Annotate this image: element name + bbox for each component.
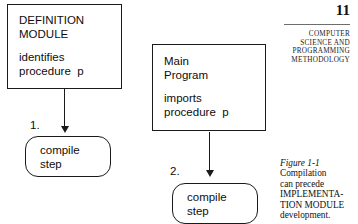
running-head: COMPUTER SCIENCE AND PROGRAMMING METHODO… <box>276 30 350 64</box>
step-number-2: 2. <box>170 165 180 177</box>
compile-step-2-box: compile step <box>172 183 258 224</box>
running-head-line: SCIENCE AND <box>276 39 350 48</box>
figure-caption: Figure 1-1 Compilation can precede IMPLE… <box>280 158 358 220</box>
arrow-mainprogram-to-compile2-line <box>209 132 210 172</box>
running-head-line: METHODOLOGY <box>276 56 350 65</box>
arrow-mainprogram-to-compile2-head <box>206 170 214 177</box>
figure-caption-line: IMPLEMENTA- <box>280 189 358 199</box>
figure-caption-line: can precede <box>280 179 358 189</box>
step-number-1: 1. <box>30 119 40 131</box>
definition-module-header: DEFINITION MODULE <box>19 14 84 41</box>
definition-module-body: identifies procedure p <box>19 51 84 78</box>
running-head-line: COMPUTER <box>276 30 350 39</box>
compile-step-1-box: compile step <box>25 136 111 177</box>
arrow-definition-to-compile1-line <box>64 89 65 128</box>
compile-step-2-label: compile step <box>187 191 227 218</box>
figure-caption-line: development. <box>280 210 358 220</box>
compile-step-1-label: compile step <box>40 144 80 171</box>
page-number: 11 <box>336 2 350 19</box>
header-rule <box>284 24 350 25</box>
definition-module-box: DEFINITION MODULE identifies procedure p <box>7 4 122 89</box>
figure-label: Figure 1-1 <box>280 158 358 168</box>
main-program-box: Main Program imports procedure p <box>152 44 266 131</box>
figure-caption-text: Compilation can precede IMPLEMENTA- TION… <box>280 168 358 220</box>
running-head-line: PROGRAMMING <box>276 47 350 56</box>
figure-caption-line: Compilation <box>280 168 358 178</box>
main-program-header: Main Program <box>164 55 208 82</box>
main-program-body: imports procedure p <box>164 92 229 119</box>
arrow-definition-to-compile1-head <box>61 126 69 133</box>
figure-caption-line: TION MODULE <box>280 200 358 210</box>
